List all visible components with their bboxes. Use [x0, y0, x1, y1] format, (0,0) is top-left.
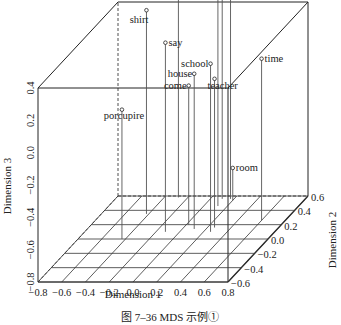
z-tick-label: −0.2	[25, 175, 36, 194]
data-point-label: time	[265, 53, 284, 64]
figure-caption: 图 7–36 MDS 示例①	[121, 310, 219, 323]
data-point-marker	[231, 166, 235, 170]
y-tick-label: 0.0	[271, 235, 284, 246]
data-point-marker	[187, 84, 191, 88]
z-tick-label: −0.8	[25, 272, 36, 291]
mds-3d-scatter-chart: Redshirtporcupiresaycometellhouseschoolt…	[0, 0, 341, 325]
data-point-label: teacher	[208, 80, 239, 91]
data-points: Redshirtporcupiresaycometellhouseschoolt…	[104, 0, 284, 173]
x-tick-label: −0.6	[52, 287, 71, 298]
data-point-marker	[260, 57, 264, 61]
data-point-label: room	[236, 162, 258, 173]
z-tick-label: 0.4	[25, 81, 36, 95]
x-tick-label: 0.4	[174, 287, 188, 298]
data-point-marker	[192, 72, 196, 76]
data-point-label: house	[168, 68, 193, 79]
z-tick-label: 0.2	[25, 114, 36, 127]
y-tick-label: −0.2	[258, 249, 277, 260]
box-edge	[38, 2, 118, 88]
y-tick-label: 0.6	[311, 192, 324, 203]
data-point-label: school	[181, 58, 208, 69]
z-axis-label: Dimension 3	[1, 157, 13, 214]
y-axis-label: Dimension 2	[326, 212, 338, 269]
y-axis-ticks: −0.6−0.4−0.20.00.20.40.6	[231, 192, 324, 289]
y-tick-label: −0.6	[231, 278, 250, 289]
box-edge	[228, 2, 308, 88]
floor-grid	[38, 196, 308, 282]
x-tick-label: 0.6	[198, 287, 211, 298]
data-point-label: shirt	[130, 14, 149, 25]
y-tick-label: 0.2	[284, 221, 297, 232]
data-point-marker	[164, 41, 168, 45]
z-tick-label: −0.6	[25, 240, 36, 259]
data-point-label: say	[168, 37, 183, 48]
z-tick-label: −0.4	[25, 207, 36, 227]
z-tick-label: 0.0	[25, 146, 36, 159]
data-point-label: porcupire	[104, 110, 145, 121]
data-point-marker	[209, 62, 213, 66]
z-axis-ticks: −0.8−0.6−0.4−0.20.00.20.4	[25, 81, 36, 292]
y-tick-label: 0.4	[298, 206, 312, 217]
x-tick-label: −0.4	[76, 287, 96, 298]
data-point-label: come	[164, 80, 187, 91]
y-tick-label: −0.4	[244, 264, 264, 275]
x-axis-label: Dimension 1	[105, 288, 162, 300]
data-point-marker	[145, 8, 149, 12]
